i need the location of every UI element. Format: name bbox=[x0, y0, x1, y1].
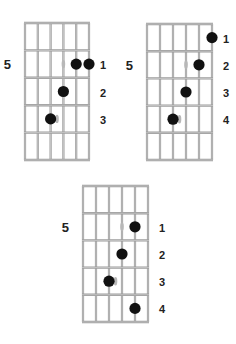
ghost-note-marker bbox=[184, 61, 188, 69]
finger-number-label: 1 bbox=[100, 59, 106, 71]
ghost-note-marker bbox=[120, 223, 124, 231]
fretboard bbox=[83, 186, 148, 322]
finger-dot bbox=[83, 59, 94, 70]
fret-position-label: 5 bbox=[62, 220, 69, 235]
finger-dot bbox=[116, 248, 127, 259]
chord-diagram-3: 51234 bbox=[62, 186, 166, 322]
finger-dot bbox=[103, 276, 114, 287]
finger-number-label: 3 bbox=[159, 276, 165, 288]
chord-diagram-2: 51234 bbox=[126, 24, 230, 160]
finger-dot bbox=[129, 221, 140, 232]
finger-number-label: 2 bbox=[100, 87, 106, 99]
finger-dot bbox=[206, 32, 217, 43]
fret-position-label: 5 bbox=[126, 58, 133, 73]
finger-number-label: 4 bbox=[159, 303, 166, 315]
finger-number-label: 4 bbox=[223, 114, 230, 126]
finger-number-label: 2 bbox=[223, 60, 229, 72]
finger-number-label: 2 bbox=[159, 249, 165, 261]
finger-number-label: 1 bbox=[223, 33, 229, 45]
fretboard bbox=[147, 24, 212, 160]
finger-dot bbox=[167, 114, 178, 125]
finger-number-label: 3 bbox=[100, 114, 106, 126]
finger-dot bbox=[71, 59, 82, 70]
ghost-note-marker bbox=[62, 60, 66, 68]
chord-diagram-1: 5123 bbox=[4, 23, 106, 160]
finger-dot bbox=[129, 303, 140, 314]
finger-number-label: 3 bbox=[223, 87, 229, 99]
finger-number-label: 1 bbox=[159, 222, 165, 234]
finger-dot bbox=[180, 86, 191, 97]
fret-position-label: 5 bbox=[4, 57, 11, 72]
fretboard bbox=[25, 23, 89, 160]
finger-dot bbox=[58, 86, 69, 97]
finger-dot bbox=[193, 59, 204, 70]
finger-dot bbox=[45, 113, 56, 124]
